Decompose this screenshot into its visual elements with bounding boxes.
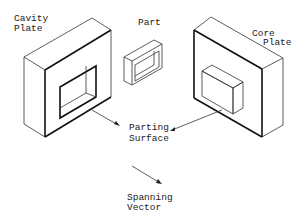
label-parting-line1: Parting [129,122,169,133]
spanning-vector-arrow [132,166,160,183]
label-spanning-line2: Vector [127,202,161,213]
arrow-head-icon [156,179,162,184]
label-cavity-line2: Plate [14,23,43,34]
part [124,40,162,85]
label-core-line2: Plate [263,37,292,48]
label-part: Part [138,17,161,28]
parting-leader-left [92,110,118,125]
mold-diagram: Cavity Plate Part Core Plate Parting Sur… [0,0,302,219]
label-parting-line2: Surface [129,133,169,144]
arrow-head-icon [114,121,120,126]
parting-leader-right [172,110,222,130]
arrow-head-icon [170,127,175,131]
cavity-plate [24,18,111,137]
